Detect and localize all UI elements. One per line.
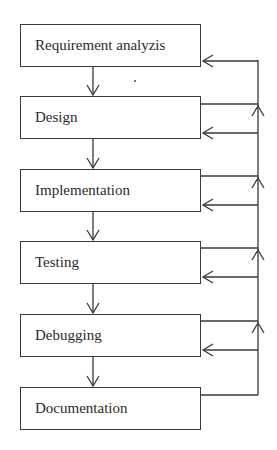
down-arrow-icon bbox=[87, 212, 99, 240]
down-arrow-icon bbox=[87, 139, 99, 168]
down-arrow-icon bbox=[87, 67, 99, 95]
down-arrow-icon bbox=[87, 284, 99, 313]
flowchart-diagram: Requirement analyzis Design Implementati… bbox=[0, 0, 277, 450]
connectors bbox=[0, 0, 277, 450]
down-arrow-icon bbox=[87, 357, 99, 386]
speck bbox=[134, 80, 136, 82]
